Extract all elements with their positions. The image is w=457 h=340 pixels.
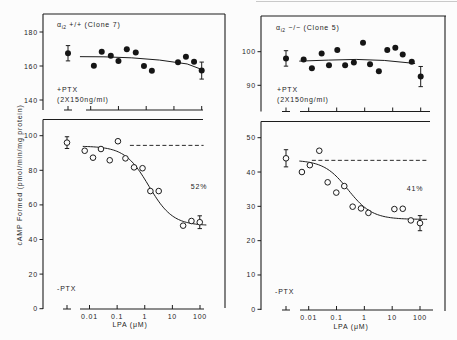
x-tick-label: 1: [362, 314, 367, 321]
data-point: [367, 61, 373, 67]
data-point: [191, 59, 197, 65]
data-point: [342, 62, 348, 68]
data-point: [131, 165, 137, 171]
x-tick-label: 0.1: [111, 313, 123, 320]
y-axis-label: cAMP Formed (pmol/min/mg protein): [16, 104, 24, 245]
figure: cAMP Formed (pmol/min/mg protein) αi2+/+…: [0, 0, 457, 340]
data-point: [319, 50, 325, 56]
panel-title: αi2+/+ (Clone 7): [57, 21, 121, 30]
x-axis-label: LPA (μM): [333, 323, 368, 331]
x-tick-label: 1: [142, 313, 147, 320]
data-point: [417, 220, 423, 226]
panel-top-right: αi2−/− (Clone 5) +PTX (2X150ng/ml) 90100: [242, 16, 446, 311]
y-tick-label: 160: [24, 63, 38, 70]
x-tick-label: 0.01: [81, 313, 98, 320]
y-tick-label: 40: [29, 236, 38, 243]
data-point: [334, 47, 340, 53]
data-point: [400, 51, 406, 57]
y-tick-label: 80: [29, 167, 38, 174]
data-point: [148, 188, 154, 194]
x-axis-label: LPA (μM): [112, 321, 147, 329]
data-point: [140, 165, 146, 171]
data-point: [384, 47, 390, 53]
x-tick-label: 10: [387, 314, 396, 321]
data-point: [376, 68, 382, 74]
data-point: [400, 206, 406, 212]
fit-curve: [299, 59, 415, 63]
data-point: [408, 218, 414, 224]
condition-label: -PTX: [275, 288, 294, 295]
data-point: [299, 169, 305, 175]
y-tick-label: 100: [24, 132, 38, 139]
data-point: [360, 40, 366, 46]
y-tick-label: 40: [247, 169, 256, 176]
data-point: [350, 204, 356, 210]
data-point: [115, 58, 121, 64]
y-tick-label: 10: [247, 271, 256, 278]
data-point: [392, 45, 398, 51]
data-point: [115, 138, 121, 144]
y-tick-label: 0: [33, 305, 38, 312]
condition-label: +PTX: [57, 86, 78, 93]
data-point: [175, 59, 181, 65]
data-point: [351, 59, 357, 65]
x-tick-label: 0.1: [330, 314, 342, 321]
data-point: [333, 190, 339, 196]
y-tick-label: 50: [247, 134, 256, 141]
data-point: [99, 49, 105, 55]
title-subscript: i2: [281, 27, 286, 33]
y-tick-label: 90: [247, 82, 256, 89]
condition-label: +PTX: [277, 86, 298, 93]
title-text: −/− (Clone 5): [288, 24, 339, 32]
x-tick-label: 0.01: [300, 314, 317, 321]
control-data-point: [283, 55, 289, 61]
control-data-point: [65, 50, 71, 56]
y-tick-label: 60: [29, 201, 38, 208]
data-point: [91, 63, 97, 69]
data-point: [156, 188, 162, 194]
data-point: [366, 210, 372, 216]
y-tick-label: 30: [247, 203, 256, 210]
data-point: [326, 62, 332, 68]
data-point: [418, 74, 424, 80]
x-tick-label: 10: [168, 313, 177, 320]
data-point: [107, 157, 113, 163]
data-point: [149, 68, 155, 74]
data-point: [199, 68, 205, 74]
y-tick-label: 100: [242, 48, 256, 55]
y-tick-label: 0: [251, 306, 256, 313]
inhibition-annotation: 52%: [191, 183, 207, 190]
x-tick-label: 100: [193, 313, 207, 320]
y-tick-label: 20: [247, 237, 256, 244]
data-point: [307, 162, 313, 168]
data-point: [183, 54, 189, 60]
data-point: [180, 223, 186, 229]
y-tick-label: 140: [24, 97, 38, 104]
panel-bottom-left: -PTX 52% LPA (μM) 0.010.1110100020406080…: [24, 120, 207, 330]
x-tick-label: 100: [413, 314, 427, 321]
data-point: [189, 218, 195, 224]
control-data-point: [283, 155, 289, 161]
y-tick-label: 180: [24, 29, 38, 36]
condition-label: -PTX: [57, 285, 76, 292]
fit-curve: [83, 146, 207, 225]
data-point: [98, 146, 104, 152]
data-point: [108, 53, 114, 59]
data-point: [309, 65, 315, 71]
data-point: [124, 46, 130, 52]
data-point: [341, 183, 347, 189]
panel-bottom-right: -PTX 41% LPA (μM) 0.010.1110100010203040…: [247, 122, 433, 332]
condition-dose-label: (2X150ng/ml): [277, 96, 329, 104]
data-point: [301, 56, 307, 62]
data-point: [392, 206, 398, 212]
data-point: [325, 180, 331, 186]
data-point: [316, 148, 322, 154]
data-point: [82, 148, 88, 154]
data-point: [409, 59, 415, 65]
data-point: [133, 49, 139, 55]
data-point: [358, 206, 364, 212]
inhibition-annotation: 41%: [407, 185, 423, 192]
data-point: [90, 155, 96, 161]
title-subscript: i2: [62, 24, 67, 30]
data-point: [141, 63, 147, 69]
